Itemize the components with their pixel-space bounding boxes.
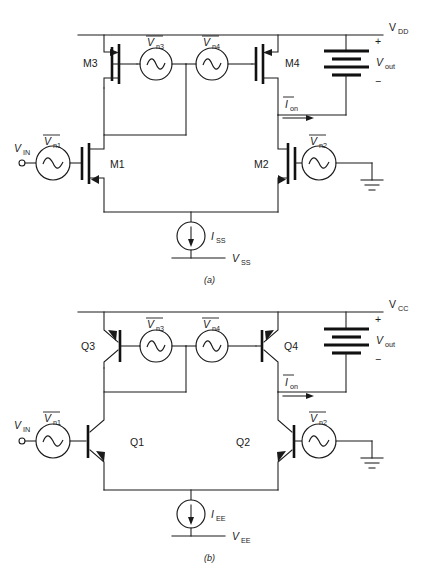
m4-source-wire [267,35,278,52]
vn1-sub-a: n1 [53,141,61,150]
q3-collector-wire [104,350,118,368]
output-minus-a: − [375,75,381,87]
device-label-q3: Q3 [81,340,95,352]
device-q3[interactable]: Q3 [81,312,140,368]
noise-source-vn3-b[interactable]: V n3 [140,318,172,362]
rail-vdd-sub: DD [398,27,408,36]
vn2-label-b: V [310,412,318,424]
ion-sub-b: on [290,382,298,391]
noise-source-vn1-a[interactable]: V n1 [36,135,70,180]
output-sub-b: out [385,340,395,349]
rail-vee-label: V [232,530,240,542]
rail-vdd-label: V [389,21,396,33]
ion-sub: on [290,104,298,113]
q4-collector-wire [264,350,278,392]
device-q2[interactable]: Q2 [236,392,294,490]
circuit-b: V CC Q3 V n3 [14,298,408,563]
vn1-label-a: V [44,135,52,147]
device-q4[interactable]: Q4 [256,312,298,392]
device-label-q4: Q4 [284,340,298,352]
output-sub-a: out [385,62,395,71]
q2-collector-wire [278,392,292,432]
vn3-label: V [147,36,155,48]
q3-emitter-arrow-icon [108,330,117,341]
vn4-sub: n4 [212,42,220,51]
input-terminal-a[interactable] [19,160,25,166]
output-battery-a: + V out − [324,35,395,115]
rail-vee-sub: EE [241,536,251,545]
iee-label: I [211,508,214,520]
noise-current-ion-a: I on [283,97,314,121]
vn2-sub-a: n2 [319,141,327,150]
m2-drain-wire [278,115,288,149]
ion-label-b: I [285,376,288,388]
caption-b: (b) [204,553,215,563]
circuit-a: V DD M3 V n3 [14,21,408,285]
noise-source-vn2-a[interactable]: V n2 [302,135,336,180]
q1-collector-wire [90,392,104,432]
output-battery-b: + V out − [324,312,395,392]
vn3-label-b: V [147,318,155,330]
m4-source-arrow-icon [263,49,272,56]
noise-source-vn3-a[interactable]: V n3 [140,36,172,80]
vn4-label-b: V [203,318,211,330]
vn4-label: V [203,36,211,48]
q4-emitter-arrow-icon [265,330,274,341]
caption-a: (a) [204,275,215,285]
ion-arrow-head-icon-b [306,393,314,399]
input-sub-a: IN [23,148,30,157]
ground-symbol-b [361,458,383,468]
current-source-iss[interactable]: I SS [177,222,226,250]
device-q1[interactable]: Q1 [88,392,144,490]
device-label-m1: M1 [110,158,125,170]
q3-base-feedback-wire [104,368,186,392]
device-m4[interactable]: M4 [252,35,300,115]
noise-source-vn4-b[interactable]: V n4 [196,318,228,362]
m1-drain-wire [89,135,104,149]
figure-container: V DD M3 V n3 [0,0,430,583]
ground-symbol-a [361,180,383,190]
current-source-iee[interactable]: I EE [177,500,226,528]
output-label-b: V [376,334,384,346]
rail-vss-sub: SS [241,258,251,267]
iss-sub: SS [216,236,226,245]
noise-source-vn4-a[interactable]: V n4 [196,36,228,80]
circuit-figure-svg: V DD M3 V n3 [0,0,430,583]
output-minus-b: − [375,353,381,365]
rail-vcc-sub: CC [398,304,408,313]
device-label-q2: Q2 [236,436,250,448]
rail-vcc-label: V [389,298,396,310]
device-m2[interactable]: M2 [254,115,295,212]
device-m3[interactable]: M3 [83,35,137,88]
ion-label: I [285,98,288,110]
noise-source-vn2-b[interactable]: V n2 [302,412,336,458]
iee-sub: EE [216,514,226,523]
device-label-m3: M3 [83,57,98,69]
m2-source-arrow-icon [278,175,286,184]
m1-source-wire [89,178,104,212]
ion-arrow-head-icon [306,115,314,121]
noise-current-ion-b: I on [283,375,314,399]
noise-source-vn1-b[interactable]: V n1 [36,412,70,458]
input-sub-b: IN [23,425,30,434]
input-label-a: V [14,142,22,154]
device-m1[interactable]: M1 [82,135,125,212]
vn1-label-b: V [44,412,52,424]
vn4-sub-b: n4 [212,324,220,333]
input-terminal-b[interactable] [19,438,25,444]
device-label-m2: M2 [254,158,269,170]
m4-drain-wire [263,78,278,115]
output-label-a: V [376,56,384,68]
output-plus-b: + [375,313,381,325]
vn3-sub: n3 [156,42,164,51]
rail-vss-label: V [232,252,240,264]
input-label-b: V [14,419,22,431]
device-label-m4: M4 [285,57,300,69]
m3-gate-feedback-wire [104,88,186,135]
vn3-sub-b: n3 [156,324,164,333]
vn2-label-a: V [310,135,318,147]
output-plus-a: + [375,35,381,47]
m1-source-arrow-icon [91,175,99,184]
m3-source-wire [104,35,115,52]
iss-label: I [211,230,214,242]
